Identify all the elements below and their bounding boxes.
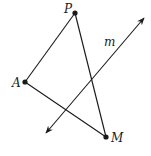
- segment-pm: [75, 13, 106, 137]
- label-line-m: m: [104, 36, 115, 48]
- point-p: [72, 10, 77, 15]
- point-a: [22, 79, 27, 84]
- line-m: [46, 18, 144, 133]
- geometry-diagram: P A M m: [0, 0, 151, 156]
- diagram-figure: [0, 0, 151, 156]
- label-p: P: [64, 3, 72, 15]
- label-a: A: [12, 77, 21, 89]
- point-m: [103, 134, 108, 139]
- segment-pa: [25, 13, 75, 82]
- label-m-point: M: [111, 132, 123, 144]
